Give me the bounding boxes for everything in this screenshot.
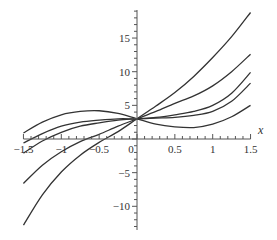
y-tick-label: −10 xyxy=(113,200,131,212)
x-tick-label: −1.5 xyxy=(13,143,33,155)
x-tick-label: 0 xyxy=(128,143,134,155)
x-tick-label: 1 xyxy=(210,143,216,155)
x-tick-label: −0.5 xyxy=(89,143,109,155)
x-tick-label: −1 xyxy=(55,143,67,155)
x-tick-label: 0.5 xyxy=(168,143,182,155)
y-tick-label: −5 xyxy=(118,167,130,179)
y-tick-label: 10 xyxy=(119,66,131,78)
y-tick-label: 15 xyxy=(119,32,131,44)
y-tick-label: 5 xyxy=(125,99,131,111)
plot-area: −1.5−1−0.500.511.5−10−551015x xyxy=(0,0,277,240)
x-tick-label: 1.5 xyxy=(244,143,258,155)
x-axis-label: x xyxy=(257,123,264,137)
